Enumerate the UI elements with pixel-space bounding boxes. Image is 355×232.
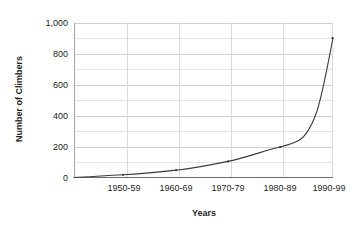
horizontal-major-gridlines [74,24,333,148]
data-series-line [74,38,333,178]
y-tick-label-0: 0 [22,173,68,183]
x-tick-label-1960-69: 1960-69 [148,183,204,193]
horizontal-minor-gridlines [74,39,333,163]
y-axis-title: Number of Climbers [14,39,24,159]
y-tick-label-400: 400 [22,111,68,121]
x-tick-label-1950-59: 1950-59 [96,183,152,193]
x-tick-label-1980-89: 1980-89 [252,183,308,193]
data-point-markers [122,37,333,176]
x-axis-title: Years [74,208,334,218]
x-tick-label-1990-99: 1990-99 [301,183,355,193]
y-tick-label-200: 200 [22,142,68,152]
y-tick-label-1000: 1,000 [22,18,68,28]
x-tick-label-1970-79: 1970-79 [200,183,256,193]
y-tick-label-600: 600 [22,80,68,90]
chart-container: 1,000 800 600 400 200 0 1950-59 1960-69 … [0,0,355,232]
y-tick-label-800: 800 [22,49,68,59]
